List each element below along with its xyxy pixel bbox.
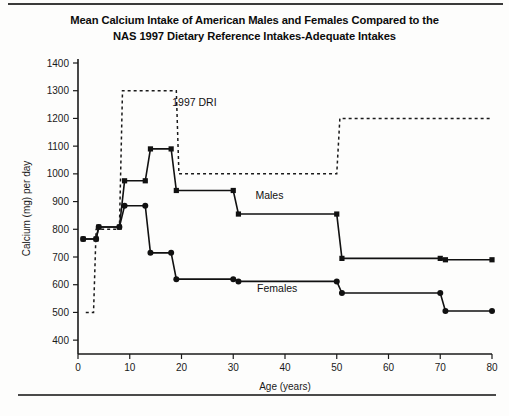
series-group [80,91,495,314]
data-point-marker [122,178,127,183]
x-tick-label: 10 [124,362,136,373]
y-tick-label: 700 [52,252,69,263]
data-point-marker [443,257,448,262]
data-point-marker [334,278,340,284]
data-point-marker [148,146,153,151]
figure-page: Mean Calcium Intake of American Males an… [0,0,509,416]
data-point-marker [143,178,148,183]
data-point-marker [142,203,148,209]
x-tick-label: 0 [75,362,81,373]
y-tick-label: 400 [52,335,69,346]
data-point-marker [168,250,174,256]
annotation-females: Females [257,282,297,294]
x-tick-label: 60 [383,362,395,373]
y-tick-label: 600 [52,279,69,290]
x-tick-label: 80 [486,362,498,373]
y-tick-label: 900 [52,196,69,207]
y-tick-label: 500 [52,307,69,318]
data-point-marker [122,203,128,209]
data-point-marker [235,278,241,284]
bottom-rule [18,394,496,396]
data-point-marker [339,290,345,296]
data-point-marker [147,250,153,256]
y-axis-title: Calcium (mg) per day [21,161,32,257]
y-tick-label: 1000 [47,168,70,179]
y-tick-label: 800 [52,224,69,235]
x-tick-label: 50 [331,362,343,373]
data-point-marker [489,257,494,262]
annotation-1997-dri: 1997 DRI [172,96,216,108]
x-tick-label: 30 [228,362,240,373]
data-point-marker [80,236,86,242]
plot-area: 40050060070080090010001100120013001400 0… [0,0,509,416]
x-axis-title: Age (years) [259,381,311,392]
data-point-marker [173,276,179,282]
data-point-marker [230,276,236,282]
y-tick-label: 1100 [47,141,69,152]
x-tick-label: 70 [435,362,447,373]
line-chart-svg: 40050060070080090010001100120013001400 0… [0,0,509,416]
data-point-marker [174,188,179,193]
x-tick-label: 20 [176,362,188,373]
data-point-marker [169,146,174,151]
x-tick-label: 40 [279,362,291,373]
data-point-marker [334,211,339,216]
data-point-marker [442,308,448,314]
data-point-marker [489,308,495,314]
y-tick-label: 1200 [47,113,70,124]
data-point-marker [438,256,443,261]
data-point-marker [437,290,443,296]
series-path-1997-dri [86,91,492,313]
x-axis: 01020304050607080 [75,354,498,373]
data-point-marker [236,211,241,216]
data-point-marker [339,256,344,261]
data-point-marker [231,188,236,193]
y-axis: 40050060070080090010001100120013001400 [47,58,78,354]
y-tick-label: 1400 [47,58,70,69]
annotation-males: Males [255,189,283,201]
y-tick-label: 1300 [47,85,70,96]
